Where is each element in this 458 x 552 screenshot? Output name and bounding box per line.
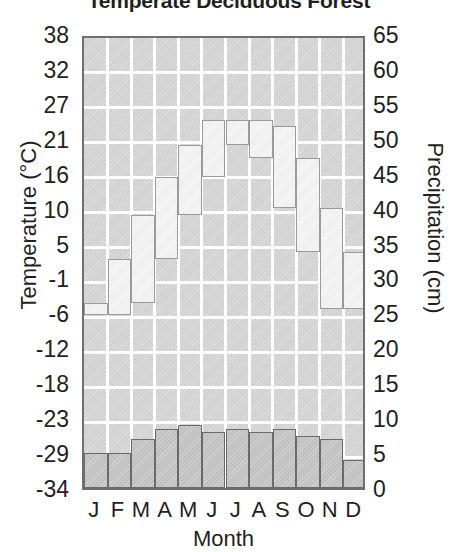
month-label: J — [224, 497, 248, 523]
precipitation-bar — [178, 425, 202, 488]
right-axis-tick-label: 50 — [373, 129, 399, 152]
right-axis-tick-label: 10 — [373, 408, 399, 431]
left-axis-tick-label: -1 — [49, 268, 69, 291]
precipitation-bar — [202, 432, 226, 488]
left-axis-tick-label: -29 — [36, 443, 69, 466]
left-axis-tick-label: 10 — [43, 199, 69, 222]
gridline-vertical — [248, 38, 251, 488]
precipitation-bar — [131, 439, 155, 488]
gridline-vertical — [200, 38, 203, 488]
precipitation-bar — [273, 429, 297, 488]
month-label: A — [153, 497, 177, 523]
right-axis-tick-label: 0 — [373, 478, 386, 501]
month-label: S — [271, 497, 295, 523]
temperature-step — [226, 120, 250, 145]
gridline-vertical — [224, 38, 227, 488]
gridline-vertical — [177, 38, 180, 488]
temperature-step — [131, 215, 155, 303]
precipitation-bar — [249, 432, 273, 488]
temperature-step — [273, 126, 297, 208]
right-axis-tick-label: 20 — [373, 338, 399, 361]
left-axis-tick-label: -18 — [36, 373, 69, 396]
left-axis-tick-label: 5 — [56, 234, 69, 257]
right-axis-tick-label: 25 — [373, 303, 399, 326]
left-axis-tick-label: -34 — [36, 478, 69, 501]
month-label: F — [106, 497, 130, 523]
month-label: D — [341, 497, 365, 523]
month-label: M — [176, 497, 200, 523]
right-axis-tick-label: 45 — [373, 164, 399, 187]
precipitation-bar — [84, 453, 108, 488]
right-axis-tick-label: 35 — [373, 234, 399, 257]
temperature-step — [249, 120, 273, 158]
left-axis-tick-label: 38 — [43, 24, 69, 47]
temperature-step — [108, 259, 132, 316]
month-label: J — [200, 497, 224, 523]
x-axis-title: Month — [82, 526, 365, 552]
month-label: O — [294, 497, 318, 523]
right-axis-title: Precipitation (cm) — [422, 103, 448, 353]
precipitation-bar — [155, 429, 179, 488]
precipitation-bar — [343, 460, 365, 488]
precipitation-bar — [108, 453, 132, 488]
left-axis-tick-label: 32 — [43, 59, 69, 82]
left-axis-tick-label: 21 — [43, 129, 69, 152]
temperature-step — [155, 177, 179, 259]
precipitation-bar — [320, 439, 344, 488]
left-axis-tick-label: 27 — [43, 94, 69, 117]
right-axis-tick-label: 5 — [373, 443, 386, 466]
gridline-vertical — [295, 38, 298, 488]
temperature-step — [84, 303, 108, 316]
temperature-step — [202, 120, 226, 177]
right-axis-tick-label: 30 — [373, 268, 399, 291]
temperature-step — [320, 208, 344, 309]
month-label: N — [318, 497, 342, 523]
temperature-step — [178, 145, 202, 214]
month-label: A — [247, 497, 271, 523]
month-label: M — [129, 497, 153, 523]
left-axis-tick-label: -23 — [36, 408, 69, 431]
right-axis-tick-label: 55 — [373, 94, 399, 117]
left-axis-tick-label: 16 — [43, 164, 69, 187]
gridline-vertical — [271, 38, 274, 488]
left-axis-tick-label: -6 — [49, 303, 69, 326]
right-axis-tick-label: 15 — [373, 373, 399, 396]
right-axis-tick-label: 40 — [373, 199, 399, 222]
month-label: J — [82, 497, 106, 523]
left-axis-title: Temperature (°C) — [16, 100, 42, 350]
temperature-step — [343, 252, 365, 309]
climograph-root: Temperate Deciduous Forest 3832272116105… — [0, 0, 458, 552]
temperature-step — [296, 158, 320, 253]
right-axis-tick-label: 65 — [373, 24, 399, 47]
right-axis-tick-label: 60 — [373, 59, 399, 82]
precipitation-bar — [226, 429, 250, 488]
plot-area — [82, 36, 365, 490]
precipitation-bar — [296, 436, 320, 488]
